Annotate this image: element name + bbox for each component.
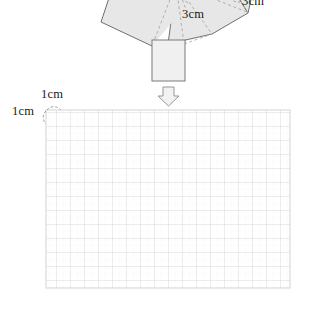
- net-rectangular-flap: [152, 40, 185, 81]
- graph-paper: [46, 110, 290, 288]
- geometry-figure: [0, 0, 309, 320]
- down-arrow: [158, 87, 179, 106]
- grid-area: [46, 110, 290, 288]
- net-label-3cm-right: 3cm: [242, 0, 264, 9]
- grid-label-1cm-left: 1cm: [12, 104, 34, 119]
- figure-page: 3cm 3cm 1cm 1cm: [0, 0, 309, 320]
- grid-label-1cm-top: 1cm: [41, 87, 63, 102]
- net-label-3cm-center: 3cm: [182, 7, 204, 22]
- solid-net: [101, 0, 253, 81]
